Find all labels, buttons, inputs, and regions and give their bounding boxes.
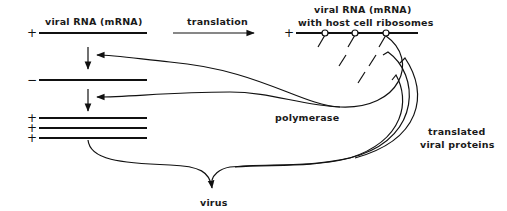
label-virus: virus [200,197,228,208]
protein-fragment [358,72,365,83]
protein-fragment [369,55,376,66]
nascent-chain-3 [379,35,386,47]
nascent-chain-1 [318,35,325,47]
ribosome-icon [352,30,358,36]
polymerase-arrow-to-minus-synthesis [97,36,403,107]
polymerase-arrow-to-plus-synthesis [97,92,340,107]
viral-replication-diagram: viral RNA (mRNA) + translation viral RNA… [0,0,507,211]
ribosome-icon [383,30,389,36]
label-translation: translation [187,16,248,27]
label-viral-rna-left: viral RNA (mRNA) [45,16,142,27]
label-host-ribosomes: with host cell ribosomes [298,17,434,28]
label-translated: translated [428,126,486,137]
plus-sign-progeny-3: + [27,131,37,145]
ribosome-icon [322,30,328,36]
label-polymerase: polymerase [275,112,339,123]
plus-sign-top: + [27,26,37,40]
plus-sign-right: + [284,26,294,40]
nascent-chain-2 [348,35,355,47]
assembly-arrow-to-virus [88,140,212,188]
minus-sign: − [27,73,37,87]
label-viral-proteins: viral proteins [420,139,495,150]
label-viral-rna-right: viral RNA (mRNA) [314,4,411,15]
protein-fragment [339,55,346,66]
